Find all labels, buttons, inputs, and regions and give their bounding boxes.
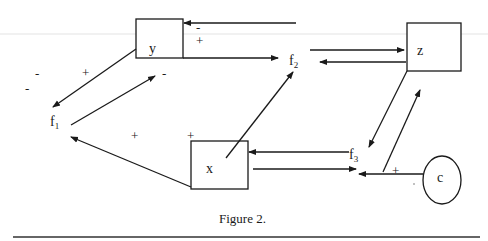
sign-y-to-f1-a: - [35,66,39,81]
sign-f1-to-y: - [162,66,166,81]
flow-f3-label: f3 [349,147,359,164]
node-z-label: z [417,43,423,58]
node-y: y [136,19,183,58]
sign-x-top-plus: + [187,128,194,143]
arrow-y-to-f1 [53,49,136,107]
arrow-f1-to-y [71,76,155,125]
flow-f2-sub: 2 [294,60,299,70]
flow-f1-label: f1 [50,114,59,131]
node-y-box [136,19,183,58]
diagram-canvas: y z x c f1 f2 f3 - + - - + - + [0,0,488,241]
node-c-label: c [437,170,443,185]
node-z-box [407,23,461,71]
sign-c-to-f3-plus: + [392,163,399,178]
node-x-box [191,141,248,189]
node-z: z [407,23,461,71]
node-x: x [191,141,248,189]
node-c: c [423,156,461,204]
arrow-x-to-f1 [71,137,191,187]
arrow-f3-to-z [383,90,420,172]
sign-y-to-f1-plus: + [82,65,89,80]
node-x-label: x [206,161,213,176]
stray-dot [413,183,414,184]
sign-y-right-out: + [196,33,203,48]
figure-caption: Figure 2. [219,211,266,226]
sign-x-to-f1-plus: + [131,128,138,143]
flow-f1-sub: 1 [55,121,60,131]
flow-f2-label: f2 [289,53,298,70]
node-y-label: y [149,41,156,56]
sign-y-to-f1-b: - [25,81,29,96]
flow-f3-sub: 3 [354,154,359,164]
arrow-z-to-f3 [369,71,407,147]
arrow-x-to-f2 [226,72,293,158]
